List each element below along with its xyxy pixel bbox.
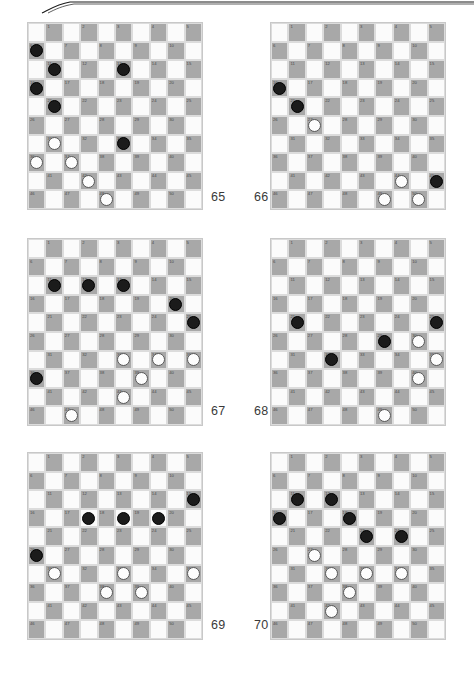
square-light-r9-c7[interactable] <box>150 620 167 639</box>
square-light-r5-c3[interactable] <box>323 116 340 135</box>
square-light-r4-c8[interactable] <box>167 97 184 116</box>
square-light-r7-c1[interactable] <box>288 583 305 602</box>
square-light-r2-c8[interactable] <box>410 490 427 509</box>
square-light-r3-c3[interactable] <box>80 509 97 528</box>
square-25[interactable]: 25 <box>185 527 202 546</box>
square-2[interactable]: 2 <box>80 23 97 42</box>
square-light-r7-c5[interactable] <box>358 369 375 388</box>
square-light-r4-c0[interactable] <box>271 97 288 116</box>
square-light-r6-c6[interactable] <box>375 565 392 584</box>
square-23[interactable]: 23 <box>358 527 375 546</box>
square-15[interactable]: 15 <box>428 276 445 295</box>
square-light-r4-c4[interactable] <box>98 527 115 546</box>
square-light-r8-c2[interactable] <box>63 388 80 407</box>
square-43[interactable]: 43 <box>358 388 375 407</box>
white-piece[interactable] <box>48 567 61 580</box>
square-19[interactable]: 19 <box>132 295 149 314</box>
square-light-r2-c0[interactable] <box>28 490 45 509</box>
white-piece[interactable] <box>395 175 408 188</box>
square-light-r7-c1[interactable] <box>45 583 62 602</box>
square-light-r4-c6[interactable] <box>132 97 149 116</box>
white-piece[interactable] <box>412 335 425 348</box>
square-3[interactable]: 3 <box>358 453 375 472</box>
square-18[interactable]: 18 <box>98 79 115 98</box>
square-26[interactable]: 26 <box>28 546 45 565</box>
square-45[interactable]: 45 <box>185 172 202 191</box>
white-piece[interactable] <box>430 353 443 366</box>
square-37[interactable]: 37 <box>306 153 323 172</box>
square-24[interactable]: 24 <box>393 313 410 332</box>
white-piece[interactable] <box>395 567 408 580</box>
black-piece[interactable] <box>30 549 43 562</box>
square-light-r3-c5[interactable] <box>115 295 132 314</box>
square-light-r7-c5[interactable] <box>115 153 132 172</box>
square-41[interactable]: 41 <box>288 172 305 191</box>
square-light-r8-c0[interactable] <box>271 602 288 621</box>
white-piece[interactable] <box>117 391 130 404</box>
square-light-r7-c9[interactable] <box>428 583 445 602</box>
square-4[interactable]: 4 <box>393 453 410 472</box>
square-23[interactable]: 23 <box>115 97 132 116</box>
square-light-r9-c7[interactable] <box>393 620 410 639</box>
square-45[interactable]: 45 <box>185 602 202 621</box>
black-piece[interactable] <box>325 353 338 366</box>
square-light-r8-c0[interactable] <box>28 388 45 407</box>
square-9[interactable]: 9 <box>375 42 392 61</box>
black-piece[interactable] <box>30 372 43 385</box>
square-38[interactable]: 38 <box>341 583 358 602</box>
square-40[interactable]: 40 <box>167 369 184 388</box>
square-light-r2-c8[interactable] <box>410 276 427 295</box>
square-light-r2-c4[interactable] <box>341 276 358 295</box>
square-9[interactable]: 9 <box>132 258 149 277</box>
black-piece[interactable] <box>325 493 338 506</box>
square-light-r3-c3[interactable] <box>80 295 97 314</box>
square-light-r7-c7[interactable] <box>393 583 410 602</box>
square-light-r8-c4[interactable] <box>98 602 115 621</box>
square-46[interactable]: 46 <box>271 190 288 209</box>
square-48[interactable]: 48 <box>98 406 115 425</box>
square-1[interactable]: 1 <box>288 453 305 472</box>
black-piece[interactable] <box>291 493 304 506</box>
square-31[interactable]: 31 <box>288 351 305 370</box>
square-9[interactable]: 9 <box>132 42 149 61</box>
square-18[interactable]: 18 <box>341 295 358 314</box>
square-22[interactable]: 22 <box>323 313 340 332</box>
square-light-r6-c6[interactable] <box>375 135 392 154</box>
square-33[interactable]: 33 <box>115 135 132 154</box>
square-light-r0-c0[interactable] <box>28 23 45 42</box>
square-light-r1-c1[interactable] <box>45 472 62 491</box>
square-light-r5-c5[interactable] <box>358 116 375 135</box>
black-piece[interactable] <box>291 316 304 329</box>
square-light-r0-c8[interactable] <box>167 453 184 472</box>
white-piece[interactable] <box>343 586 356 599</box>
square-light-r2-c2[interactable] <box>63 490 80 509</box>
square-light-r3-c7[interactable] <box>393 509 410 528</box>
square-40[interactable]: 40 <box>167 583 184 602</box>
square-light-r0-c2[interactable] <box>306 453 323 472</box>
square-22[interactable]: 22 <box>80 97 97 116</box>
square-36[interactable]: 36 <box>28 583 45 602</box>
square-12[interactable]: 12 <box>80 60 97 79</box>
square-light-r9-c9[interactable] <box>428 190 445 209</box>
black-piece[interactable] <box>117 63 130 76</box>
square-5[interactable]: 5 <box>428 23 445 42</box>
square-light-r8-c2[interactable] <box>63 172 80 191</box>
square-light-r4-c2[interactable] <box>306 313 323 332</box>
square-light-r5-c7[interactable] <box>150 332 167 351</box>
square-34[interactable]: 34 <box>150 351 167 370</box>
square-light-r8-c0[interactable] <box>271 172 288 191</box>
square-11[interactable]: 11 <box>45 490 62 509</box>
square-2[interactable]: 2 <box>323 239 340 258</box>
square-25[interactable]: 25 <box>428 97 445 116</box>
square-12[interactable]: 12 <box>80 490 97 509</box>
square-37[interactable]: 37 <box>63 153 80 172</box>
square-light-r5-c3[interactable] <box>323 546 340 565</box>
square-light-r0-c4[interactable] <box>341 453 358 472</box>
square-31[interactable]: 31 <box>288 565 305 584</box>
white-piece[interactable] <box>135 586 148 599</box>
square-30[interactable]: 30 <box>167 332 184 351</box>
square-light-r4-c8[interactable] <box>410 527 427 546</box>
square-23[interactable]: 23 <box>115 313 132 332</box>
square-light-r3-c1[interactable] <box>45 79 62 98</box>
square-50[interactable]: 50 <box>167 190 184 209</box>
